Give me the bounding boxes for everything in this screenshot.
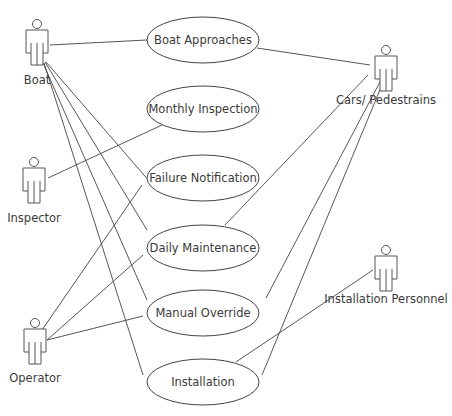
use-case-label: Failure Notification <box>149 171 256 185</box>
assoc-boat-approach <box>50 40 147 45</box>
assoc-cars-override <box>266 80 381 298</box>
use-case-label: Installation <box>171 375 235 389</box>
actor-label: Operator <box>9 371 61 385</box>
actor-label: Installation Personnel <box>324 292 448 306</box>
assoc-inspector-monthly <box>48 125 162 178</box>
assoc-boat-install <box>46 62 150 182</box>
use-case-diagram: Boat Approaches Monthly Inspection Failu… <box>0 0 452 416</box>
actor-cars-pedestrians[interactable]: Cars/ Pedestrains <box>336 46 436 108</box>
use-case-monthly-inspection[interactable]: Monthly Inspection <box>147 86 259 132</box>
use-case-label: Boat Approaches <box>154 33 252 47</box>
assoc-operator-daily <box>47 255 143 340</box>
assoc-cars-install <box>262 80 384 375</box>
actor-label: Boat <box>24 73 51 87</box>
actor-inspector[interactable]: Inspector <box>7 158 61 226</box>
actor-label: Cars/ Pedestrains <box>336 93 436 107</box>
use-case-installation[interactable]: Installation <box>147 359 259 405</box>
actor-icon <box>375 246 397 292</box>
actor-icon <box>24 319 46 365</box>
actor-icon <box>26 20 48 66</box>
assoc-cars-approach <box>257 48 370 65</box>
actor-boat[interactable]: Boat <box>24 20 51 88</box>
use-case-manual-override[interactable]: Manual Override <box>147 290 259 336</box>
actor-installation-personnel[interactable]: Installation Personnel <box>324 246 448 307</box>
actor-label: Inspector <box>7 211 61 225</box>
use-case-label: Daily Maintenance <box>150 241 257 255</box>
actor-operator[interactable]: Operator <box>9 319 61 386</box>
use-case-label: Manual Override <box>155 306 250 320</box>
assoc-operator-failure <box>42 185 142 330</box>
use-case-label: Monthly Inspection <box>148 102 257 116</box>
assoc-boat-daily <box>43 63 147 300</box>
use-case-boat-approaches[interactable]: Boat Approaches <box>147 17 259 63</box>
assoc-operator-override <box>47 316 143 340</box>
use-case-failure-notification[interactable]: Failure Notification <box>147 155 259 201</box>
actor-icon <box>23 158 45 204</box>
assoc-boat-failure <box>45 62 147 230</box>
use-case-daily-maintenance[interactable]: Daily Maintenance <box>147 225 259 271</box>
